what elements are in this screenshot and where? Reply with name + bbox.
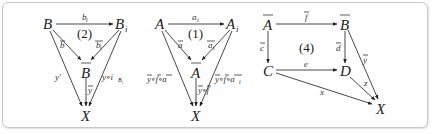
node-X: X (190, 108, 201, 124)
node-C: C (263, 63, 274, 79)
node-B-bar: B (340, 17, 349, 33)
edge-b-to-x (50, 31, 82, 106)
diagram-4: A B C D X f c d (4) e y z x (260, 12, 386, 117)
region-label-2: (2) (77, 26, 92, 41)
node-A-bar: A (262, 17, 273, 33)
label-y-f-a-i-subscript: i (239, 79, 241, 85)
label-d-bar: d (336, 43, 341, 53)
node-D: D (339, 63, 351, 79)
label-a-i-subscript: i (197, 17, 199, 23)
label-y-f-a: y∘f∘a (146, 74, 167, 84)
node-B-bar: B (81, 65, 90, 81)
label-e: e (304, 59, 308, 69)
label-b-bar: b (60, 40, 65, 50)
node-A: A (154, 16, 165, 32)
label-b-i-subscript: i (86, 17, 88, 23)
label-y-bar: y (362, 55, 367, 65)
label-f-bar: f (305, 12, 309, 22)
label-x: x (319, 87, 324, 97)
node-A-i: A (225, 16, 236, 32)
label-a-bar: a (178, 40, 183, 50)
label-y-f-a-i: y∘f∘a (214, 74, 235, 84)
diagram-1: A A i A X a i (1) a a i y∘f∘a y∘f∘a i y∘… (146, 12, 242, 124)
node-B-i: B (115, 16, 124, 32)
region-label-4: (4) (299, 40, 314, 55)
commutative-diagrams: B B i B X b i (2) b b i y' y∘i B i y A A… (0, 0, 432, 134)
edge-d-to-x (350, 77, 375, 100)
label-y-prime: y' (54, 72, 62, 82)
node-A-i-subscript: i (236, 24, 239, 34)
node-B-i-subscript: i (125, 24, 128, 34)
edge-bi-to-x (89, 31, 121, 106)
region-label-1: (1) (188, 26, 203, 41)
label-y-f: y∘f (197, 85, 210, 95)
label-z: z (363, 78, 368, 88)
label-c-bar: c (260, 43, 264, 53)
label-y-circ-i: y∘i (101, 72, 113, 82)
diagram-2: B B i B X b i (2) b b i y' y∘i B i y (43, 12, 128, 124)
label-y-circ-i-subsubscript: i (122, 80, 123, 85)
edge-c-to-x (276, 73, 372, 104)
node-X: X (80, 108, 91, 124)
node-B: B (43, 16, 52, 32)
label-y-bar: y (87, 85, 92, 95)
node-A-bar: A (190, 65, 201, 81)
node-X: X (375, 101, 386, 117)
